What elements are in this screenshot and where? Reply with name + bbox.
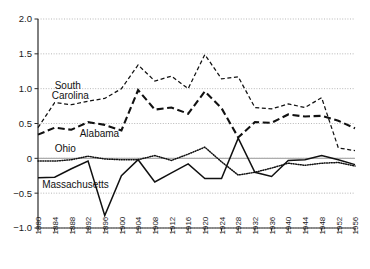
- x-tick-label: 1932: [251, 216, 260, 234]
- x-axis-tick-labels: 1880188418881892189619001904190819121916…: [34, 216, 360, 234]
- y-tick-label: 0: [27, 153, 32, 164]
- x-tick-label: 1944: [301, 216, 310, 234]
- series-label-massachusetts: Massachusetts: [42, 179, 109, 190]
- y-tick-label: 1.0: [19, 83, 32, 94]
- series-label-south-carolina-line2: Carolina: [52, 90, 90, 101]
- x-tick-label: 1916: [184, 216, 193, 234]
- x-tick-label: 1908: [151, 216, 160, 234]
- x-tick-label: 1884: [51, 216, 60, 234]
- x-tick-label: 1912: [168, 216, 177, 234]
- x-tick-label: 1928: [234, 216, 243, 234]
- x-tick-label: 1888: [68, 216, 77, 234]
- y-tick-label: −1.0: [13, 222, 32, 233]
- x-tick-label: 1956: [351, 216, 360, 234]
- y-tick-label: 2.0: [19, 13, 32, 24]
- series-label-ohio: Ohio: [55, 143, 77, 154]
- x-tick-label: 1924: [218, 216, 227, 234]
- x-tick-label: 1892: [84, 216, 93, 234]
- line-chart: 2.01.51.00.50−0.5−1.0 188018841888189218…: [0, 0, 370, 269]
- y-tick-label: 0.5: [19, 118, 32, 129]
- y-tick-label: 1.5: [19, 48, 32, 59]
- series-label-alabama: Alabama: [80, 128, 120, 139]
- x-tick-label: 1940: [284, 216, 293, 234]
- gridlines-group: [38, 19, 355, 228]
- x-tick-label: 1900: [118, 216, 127, 234]
- x-tick-label: 1904: [134, 216, 143, 234]
- x-tick-label: 1920: [201, 216, 210, 234]
- x-tick-label: 1896: [101, 216, 110, 234]
- y-axis-tick-labels: 2.01.51.00.50−0.5−1.0: [13, 13, 32, 233]
- y-tick-label: −0.5: [13, 188, 32, 199]
- x-tick-label: 1936: [268, 216, 277, 234]
- series-inline-labels: SouthCarolinaAlabamaOhioMassachusetts: [42, 80, 119, 190]
- x-tick-label: 1880: [34, 216, 43, 234]
- chart-canvas: 2.01.51.00.50−0.5−1.0 188018841888189218…: [0, 0, 370, 269]
- x-tick-label: 1952: [335, 216, 344, 234]
- x-tick-label: 1948: [318, 216, 327, 234]
- series-line-massachusetts: [38, 138, 355, 215]
